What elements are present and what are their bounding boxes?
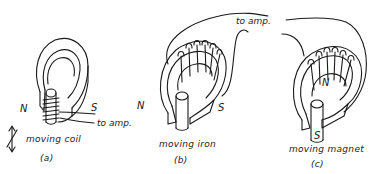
caption-moving-iron: moving iron [159,140,216,149]
pole-label-north-b: N [137,101,144,111]
caption-moving-magnet: moving magnet [289,145,364,154]
lead-label-a: to amp. [97,119,132,128]
caption-letter-a: (a) [40,154,53,163]
moving-iron-drawing [160,13,268,130]
caption-letter-b: (b) [174,156,188,165]
pole-label-north-a: N [20,104,27,114]
caption-letter-c: (c) [311,160,324,169]
pole-label-south-c: S [314,131,320,141]
pole-label-south-b: S [218,103,224,113]
pole-label-south-a: S [91,103,97,113]
pole-label-north-c: N [322,78,329,88]
caption-moving-coil: moving coil [26,135,81,144]
lead-label-c: to amp. [236,17,271,26]
